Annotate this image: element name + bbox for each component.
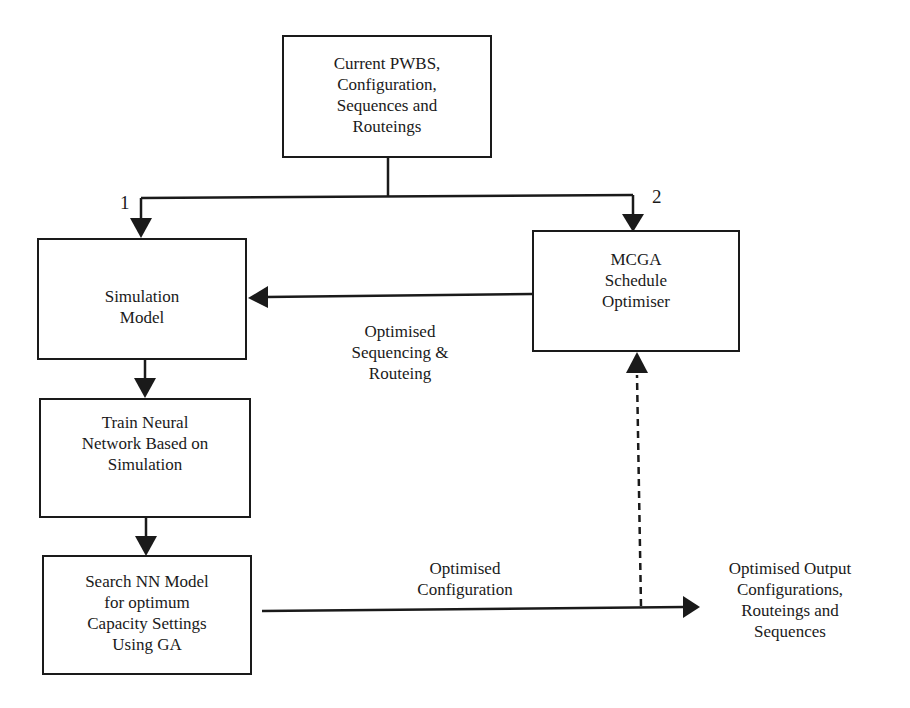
search-box-line: Search NN Model xyxy=(85,571,209,592)
search-box-line: for optimum xyxy=(104,592,189,613)
search-nn-box[interactable]: Search NN Model for optimum Capacity Set… xyxy=(42,555,252,675)
split-line xyxy=(141,195,633,198)
mcga-box-line: Schedule xyxy=(605,270,667,291)
train-box-line: Train Neural xyxy=(102,412,189,433)
input-box[interactable]: Current PWBS, Configuration, Sequences a… xyxy=(282,35,492,158)
arrow-to-train-icon xyxy=(134,378,156,398)
simulation-model-box[interactable]: Simulation Model xyxy=(37,238,247,360)
output-label: Optimised Output Configurations, Routein… xyxy=(705,558,875,642)
search-box-line: Capacity Settings xyxy=(87,613,206,634)
branch-label-2: 2 xyxy=(652,186,662,208)
arrow-to-search-icon xyxy=(135,536,157,556)
mcga-box-line: Optimiser xyxy=(602,291,670,312)
search-box-line: Using GA xyxy=(112,634,181,655)
train-nn-box[interactable]: Train Neural Network Based on Simulation xyxy=(39,398,251,518)
mcga-optimiser-box[interactable]: MCGA Schedule Optimiser xyxy=(532,230,740,352)
input-box-line: Current PWBS, xyxy=(334,53,441,74)
sequencing-edge-label: Optimised Sequencing & Routeing xyxy=(325,321,475,384)
branch-label-1: 1 xyxy=(120,192,130,214)
arrow-to-output-icon xyxy=(683,596,700,618)
train-box-line: Network Based on xyxy=(82,433,209,454)
mcga-box-line: MCGA xyxy=(610,249,661,270)
simulation-box-line: Simulation xyxy=(105,286,180,307)
input-box-line: Sequences and xyxy=(337,95,438,116)
input-box-line: Configuration, xyxy=(337,74,437,95)
simulation-box-line: Model xyxy=(120,307,164,328)
configuration-edge-label: Optimised Configuration xyxy=(380,558,550,600)
train-box-line: Simulation xyxy=(108,454,183,475)
arrow-to-mcga-feedback-icon xyxy=(626,352,648,373)
input-box-line: Routeings xyxy=(353,116,422,137)
arrow-to-simulation-left-icon xyxy=(248,286,268,308)
arrow-to-simulation-icon xyxy=(130,218,152,238)
